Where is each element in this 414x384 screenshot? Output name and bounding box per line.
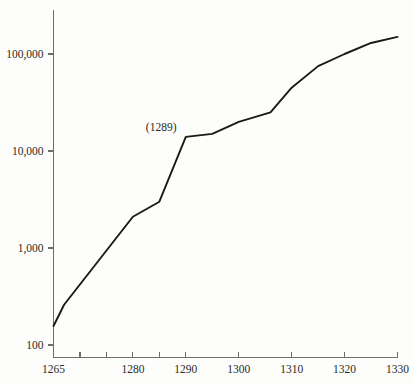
line-chart: 1001,00010,000100,000 126512801290130013… [0, 0, 414, 384]
x-tick-label: 1320 [333, 363, 356, 375]
x-tick-label: 1290 [174, 363, 197, 375]
y-tick-label: 100,000 [6, 48, 44, 61]
annotation-1289: (1289) [146, 121, 177, 134]
x-tick-label: 1280 [121, 363, 144, 375]
data-line-series-1 [54, 37, 398, 326]
x-tick-label: 1330 [386, 363, 409, 375]
x-tick-label: 1300 [227, 363, 250, 375]
x-tick-label: 1310 [280, 363, 303, 375]
axis-lines [54, 10, 399, 358]
y-tick-group: 1001,00010,000100,000 [6, 48, 53, 351]
y-tick-label: 100 [26, 339, 44, 351]
y-tick-label: 1,000 [18, 242, 44, 255]
x-tick-group: 1265128012901300131013201330 [42, 352, 409, 376]
x-tick-label: 1265 [42, 363, 65, 375]
chart-container: 1001,00010,000100,000 126512801290130013… [0, 0, 414, 384]
y-tick-label: 10,000 [12, 145, 44, 158]
